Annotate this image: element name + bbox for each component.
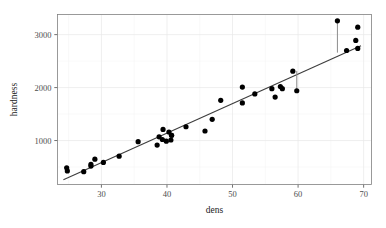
data-point (353, 38, 358, 43)
data-point (273, 95, 278, 100)
data-point (294, 88, 299, 93)
panel-background (58, 15, 372, 185)
data-point (81, 169, 86, 174)
data-point (169, 133, 174, 138)
y-axis-title: hardness (9, 83, 19, 117)
data-point (155, 142, 160, 147)
x-tick-label: 30 (97, 189, 106, 199)
data-point (252, 91, 257, 96)
data-point (101, 160, 106, 165)
x-tick-label: 50 (228, 189, 237, 199)
data-point (202, 128, 207, 133)
data-point (240, 100, 245, 105)
y-tick-label: 2000 (35, 83, 52, 93)
data-point (65, 168, 70, 173)
x-axis-title: dens (206, 205, 224, 215)
x-tick-label: 70 (359, 189, 368, 199)
data-point (160, 127, 165, 132)
data-point (168, 137, 173, 142)
data-point (164, 139, 169, 144)
data-point (88, 162, 93, 167)
data-point (92, 157, 97, 162)
y-tick-label: 1000 (35, 136, 52, 146)
data-point (344, 48, 349, 53)
y-tick-label: 3000 (35, 30, 52, 40)
x-tick-label: 40 (163, 189, 172, 199)
data-point (355, 46, 360, 51)
data-point (335, 18, 340, 23)
chart-figure: 3040506070 100020003000 dens hardness (0, 0, 386, 228)
data-point (136, 139, 141, 144)
data-point (240, 84, 245, 89)
data-point (218, 98, 223, 103)
data-point (183, 124, 188, 129)
data-point (355, 25, 360, 30)
data-point (117, 154, 122, 159)
data-point (210, 117, 215, 122)
data-point (269, 86, 274, 91)
x-tick-label: 60 (294, 189, 303, 199)
data-point (290, 69, 295, 74)
scatter-plot: 3040506070 100020003000 dens hardness (0, 0, 386, 228)
data-point (280, 86, 285, 91)
